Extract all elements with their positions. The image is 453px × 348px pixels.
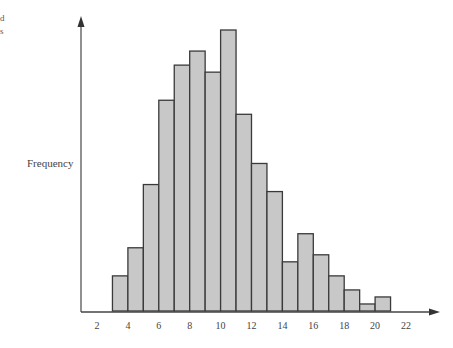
x-tick-label: 4	[125, 320, 130, 331]
x-tick-label: 10	[216, 320, 226, 331]
histogram: 246810121416182022	[0, 0, 453, 348]
x-axis-arrow-icon	[429, 309, 440, 316]
histogram-bar	[344, 290, 359, 311]
x-tick-label: 22	[401, 320, 411, 331]
histogram-bar	[143, 185, 158, 311]
histogram-bar	[112, 276, 127, 311]
histogram-bar	[252, 163, 267, 311]
histogram-bars	[112, 30, 390, 311]
x-tick-labels: 246810121416182022	[95, 320, 412, 331]
x-tick-label: 8	[187, 320, 192, 331]
x-tick-label: 12	[247, 320, 257, 331]
histogram-bar	[128, 248, 143, 311]
histogram-bar	[205, 72, 220, 311]
histogram-bar	[282, 262, 297, 311]
x-tick-label: 20	[370, 320, 380, 331]
x-tick-label: 18	[339, 320, 349, 331]
histogram-bar	[360, 304, 375, 311]
histogram-bar	[221, 30, 236, 311]
histogram-bar	[267, 192, 282, 311]
histogram-bar	[190, 51, 205, 311]
y-axis-arrow-icon	[78, 16, 85, 27]
histogram-bar	[375, 297, 390, 311]
x-tick-label: 14	[277, 320, 287, 331]
histogram-bar	[329, 276, 344, 311]
histogram-bar	[298, 234, 313, 311]
x-tick-label: 6	[156, 320, 161, 331]
x-tick-label: 2	[95, 320, 100, 331]
x-tick-label: 16	[308, 320, 318, 331]
histogram-bar	[313, 255, 328, 311]
histogram-bar	[236, 114, 251, 311]
histogram-bar	[159, 100, 174, 311]
histogram-bar	[174, 65, 189, 311]
